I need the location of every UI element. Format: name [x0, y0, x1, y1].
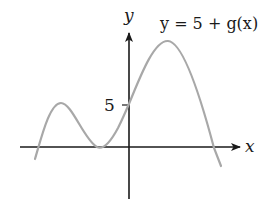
curve-label: y = 5 + g(x): [159, 14, 258, 33]
x-axis-label: x: [245, 136, 255, 156]
y-tick-label: 5: [104, 95, 115, 115]
y-axis-label: y: [123, 5, 134, 25]
function-graph: y x 5 y = 5 + g(x): [0, 0, 275, 199]
